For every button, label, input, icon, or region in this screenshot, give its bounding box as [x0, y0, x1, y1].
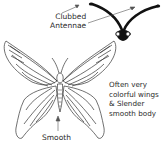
head-thorax	[57, 73, 63, 83]
wing-body-description: Often very colorful wings & Slender smoo…	[109, 80, 159, 118]
label-line: Clubbed	[50, 12, 86, 21]
smooth-body-label: Smooth	[42, 134, 71, 142]
label-line: Antennae	[50, 21, 86, 30]
butterfly-diagram: Clubbed Antennae Often very colorful win…	[0, 0, 164, 147]
antennae-inset	[89, 2, 160, 41]
label-line: & Slender	[109, 99, 159, 109]
clubbed-antennae-label: Clubbed Antennae	[50, 12, 86, 30]
label-line: colorful wings	[109, 90, 159, 100]
label-line: Often very	[109, 80, 159, 90]
label-line: smooth body	[109, 109, 159, 119]
butterfly-main	[4, 41, 116, 138]
